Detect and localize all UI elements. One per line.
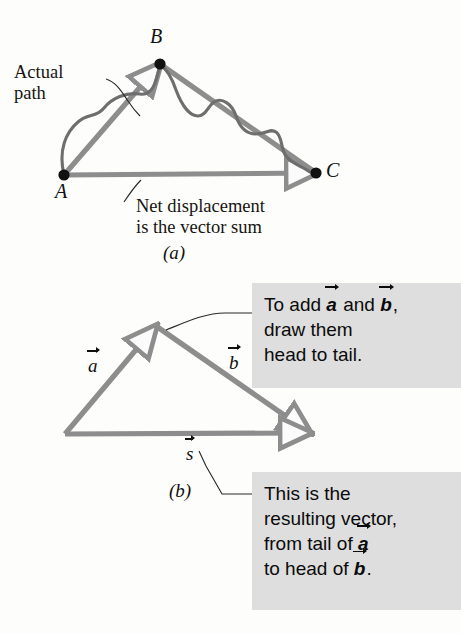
panel-a-label: (a) <box>163 243 185 263</box>
actual-path-annotation: Actualpath <box>14 62 63 105</box>
resulting-vector-callout-line-3: from tail of a <box>264 531 451 556</box>
vector-a-arrow <box>65 326 156 434</box>
actual-path-note-line-2: path <box>14 83 63 104</box>
vector-symbol-s: s <box>186 443 194 465</box>
vector-label-s: s <box>186 443 194 465</box>
resulting-vector-callout: This is theresulting vector,from tail of… <box>252 472 461 610</box>
add-vectors-leader-line <box>166 313 252 330</box>
net-displacement-note-line-2: is the vector sum <box>136 217 265 238</box>
resulting-vector-leader-line <box>199 451 252 494</box>
vector-symbol-b: b <box>354 556 367 581</box>
point-c-dot <box>310 167 321 178</box>
add-vectors-callout-line-2: draw them <box>264 317 451 342</box>
vector-a-to-c <box>64 173 316 175</box>
point-b-dot <box>154 58 165 69</box>
net-displacement-note-line-1: Net displacement <box>136 196 265 217</box>
vector-a-to-b <box>64 64 160 175</box>
add-vectors-callout-line-3: head to tail. <box>264 342 451 367</box>
vector-symbol-a: a <box>88 355 99 377</box>
point-label-c: C <box>326 160 339 181</box>
add-vectors-callout-line-1: To add a and b, <box>264 292 451 317</box>
point-label-a: A <box>55 181 67 202</box>
add-vectors-callout: To add a and b,draw themhead to tail. <box>252 283 461 388</box>
vector-symbol-b: b <box>380 292 393 317</box>
point-label-b: B <box>150 26 162 47</box>
vector-s-arrow <box>65 433 310 434</box>
resulting-vector-callout-line-1: This is the <box>264 481 451 506</box>
vector-label-a: a <box>88 355 99 377</box>
resulting-vector-callout-line-4: to head of b. <box>264 556 451 581</box>
resulting-vector-callout-line-2: resulting vector, <box>264 506 451 531</box>
panel-a-graphics <box>58 58 321 202</box>
vector-symbol-a: a <box>326 292 338 317</box>
panel-b-label: (b) <box>169 481 191 501</box>
net-displacement-annotation: Net displacementis the vector sum <box>136 196 265 239</box>
vector-label-b: b <box>229 352 240 374</box>
point-a-dot <box>58 169 69 180</box>
physics-figure: A B C Actualpath Net displacementis the … <box>0 0 461 634</box>
vector-symbol-b: b <box>229 352 240 374</box>
actual-path-note-line-1: Actual <box>14 62 63 83</box>
